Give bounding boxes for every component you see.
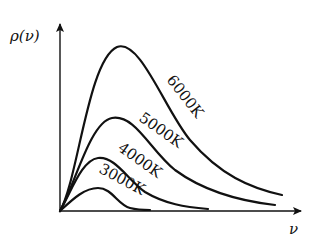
- blackbody-diagram: ρ(ν) ν 6000K 5000K 4000K 3000K: [0, 0, 323, 241]
- label-5000k: 5000K: [136, 109, 187, 153]
- y-axis-label: ρ(ν): [9, 27, 40, 45]
- label-6000k: 6000K: [163, 71, 208, 122]
- x-axis-label: ν: [289, 220, 298, 238]
